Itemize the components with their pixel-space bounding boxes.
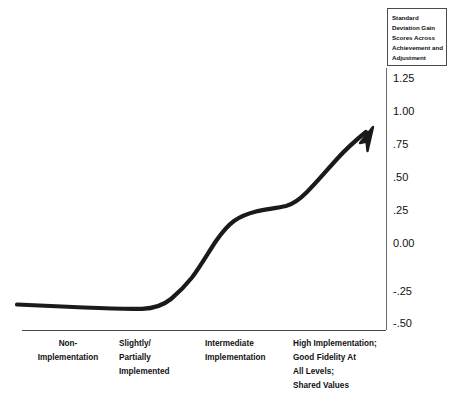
x-tick-line-4b: Good Fidelity At [293,351,377,365]
trend-line [17,132,366,309]
y-tick-label-4: .50 [393,171,433,183]
x-tick-line-3b: Implementation [205,351,266,365]
y-tick-label-3: .75 [393,138,433,150]
chart-canvas: Standard Deviation Gain Scores Across Ac… [0,0,454,395]
x-tick-line-4c: All Levels; [293,365,377,379]
x-tick-line-2c: Implemented [119,365,170,379]
x-tick-label-non-implementation: Non- Implementation [22,337,114,365]
x-tick-label-slightly-partially-implemented: Slightly/ Partially Implemented [119,337,170,379]
y-tick-label-8: -.50 [393,317,433,329]
x-tick-label-intermediate-implementation: Intermediate Implementation [205,337,266,365]
y-tick-label-6: 0.00 [393,237,433,249]
y-tick-label-7: -.25 [393,285,433,297]
x-tick-line-3a: Intermediate [205,337,266,351]
x-tick-line-2b: Partially [119,351,170,365]
y-tick-label-5: .25 [393,204,433,216]
x-tick-line-1b: Implementation [22,351,114,365]
plot-area [0,0,454,395]
x-tick-line-4a: High Implementation; [293,337,377,351]
x-tick-line-1a: Non- [22,337,114,351]
x-tick-label-high-implementation: High Implementation; Good Fidelity At Al… [293,337,377,393]
y-tick-label-1: 1.25 [393,72,433,84]
x-tick-line-2a: Slightly/ [119,337,170,351]
x-tick-line-4d: Shared Values [293,379,377,393]
y-tick-label-2: 1.00 [393,105,433,117]
